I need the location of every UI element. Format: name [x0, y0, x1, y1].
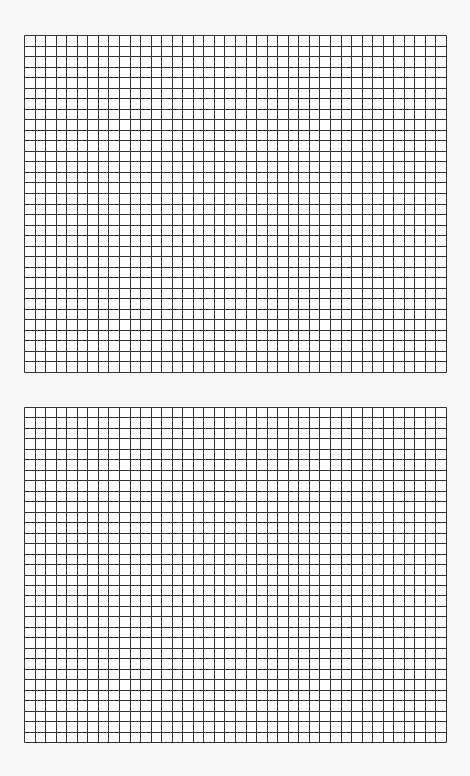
graph-paper-grid-bottom — [24, 407, 447, 743]
graph-paper-grid-top — [24, 35, 447, 373]
